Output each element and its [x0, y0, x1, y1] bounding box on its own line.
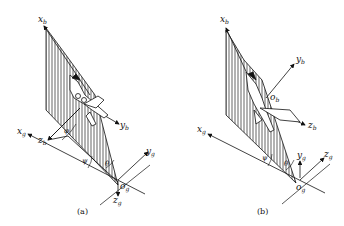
- yg-axis: [118, 152, 148, 180]
- label-zb: zb: [307, 120, 317, 131]
- label-og: og: [296, 182, 305, 194]
- label-zg: zg: [323, 149, 333, 161]
- label-zg: zg: [112, 195, 122, 207]
- label-xg: xg: [197, 124, 206, 136]
- label-xg: xg: [17, 126, 26, 138]
- label-zb: zb: [37, 135, 47, 146]
- zg-axis: [300, 158, 324, 180]
- panel-a: xb yb zb xg yg zg og φ ψ θ (a): [17, 14, 155, 216]
- angle-psi: ψ: [262, 154, 268, 162]
- label-xb: xb: [220, 14, 229, 25]
- caption-a: (a): [77, 207, 88, 216]
- coordinate-diagram: xb yb zb xg yg zg og φ ψ θ (a): [0, 0, 344, 226]
- label-yg: yg: [145, 146, 155, 158]
- angle-psi: ψ: [82, 157, 88, 165]
- label-yg: yg: [296, 150, 306, 162]
- label-yb: yb: [295, 54, 305, 65]
- label-yb: yb: [119, 120, 129, 131]
- angle-phi: φ: [64, 127, 69, 135]
- label-xb: xb: [38, 14, 47, 25]
- panel-b: xb yb ob zb xg yg zg og ψ θ (b): [197, 14, 333, 216]
- label-ob: ob: [270, 92, 279, 103]
- caption-b: (b): [257, 207, 268, 216]
